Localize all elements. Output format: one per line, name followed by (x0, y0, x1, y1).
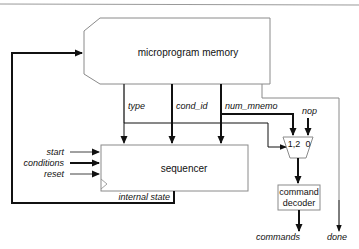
field-cond-id-label: cond_id (176, 101, 209, 111)
mux: 1,2 0 (283, 137, 313, 158)
sequencer-block: sequencer (101, 145, 248, 191)
controller-block-diagram: microprogram memory type cond_id num_mne… (0, 0, 359, 249)
output-done-label: done (327, 232, 347, 242)
input-reset-label: reset (44, 169, 65, 179)
sequencer-label: sequencer (161, 163, 208, 174)
top-rule (0, 4, 359, 5)
mux-input-1-2: 1,2 (288, 139, 301, 149)
num-mnemo-signal (221, 84, 293, 143)
command-decoder-label-line2: decoder (283, 198, 316, 208)
output-commands-label: commands (256, 232, 301, 242)
field-type-label: type (128, 101, 145, 111)
internal-state-label: internal state (118, 192, 170, 202)
field-nop-label: nop (302, 106, 317, 116)
input-start-label: start (46, 147, 64, 157)
microprogram-memory-label: microprogram memory (138, 47, 239, 58)
input-conditions-label: conditions (23, 158, 64, 168)
command-decoder-label-line1: command (279, 187, 319, 197)
command-decoder-block: command decoder (278, 185, 320, 210)
mux-input-0: 0 (305, 139, 310, 149)
field-num-mnemo-label: num_mnemo (225, 101, 278, 111)
